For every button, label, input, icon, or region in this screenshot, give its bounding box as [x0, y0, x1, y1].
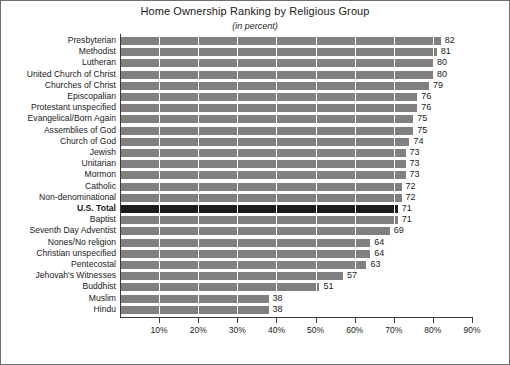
bar-value-label: 82 — [445, 35, 455, 45]
bar-value-label: 73 — [410, 147, 420, 157]
category-label: Mormon — [0, 169, 116, 181]
bar — [120, 306, 269, 314]
bar-value-label: 38 — [273, 304, 283, 314]
bar — [120, 261, 366, 269]
bar — [120, 93, 417, 101]
x-tick-label: 60% — [346, 325, 363, 335]
chart-title: Home Ownership Ranking by Religious Grou… — [0, 5, 510, 17]
gridline-30pct — [237, 36, 238, 316]
category-label: Nones/No religion — [0, 237, 116, 249]
bar-value-label: 81 — [441, 46, 451, 56]
x-tick — [159, 318, 160, 323]
gridline-10pct — [159, 36, 160, 316]
category-label: Buddhist — [0, 281, 116, 293]
category-axis-labels: PresbyterianMethodistLutheranUnited Chur… — [0, 36, 116, 316]
bar — [120, 239, 370, 247]
x-tick — [433, 318, 434, 323]
bar-row: 69 — [120, 226, 472, 238]
bar — [120, 205, 398, 213]
x-tick — [276, 318, 277, 323]
bar-row: 72 — [120, 182, 472, 194]
bar-row: 51 — [120, 282, 472, 294]
bar-value-label: 71 — [402, 214, 412, 224]
x-tick — [237, 318, 238, 323]
category-label: Seventh Day Adventist — [0, 225, 116, 237]
category-label: Church of God — [0, 136, 116, 148]
category-label: Hindu — [0, 304, 116, 316]
bar-value-label: 76 — [421, 91, 431, 101]
category-label: Catholic — [0, 181, 116, 193]
category-label: Christian unspecified — [0, 248, 116, 260]
category-label: Protestant unspecified — [0, 102, 116, 114]
category-label: Churches of Christ — [0, 80, 116, 92]
bar-row: 38 — [120, 305, 472, 317]
x-tick-label: 40% — [268, 325, 285, 335]
bar-row: 71 — [120, 204, 472, 216]
category-label: Non-denominational — [0, 192, 116, 204]
x-tick-label: 50% — [307, 325, 324, 335]
gridline-40pct — [276, 36, 277, 316]
x-tick — [316, 318, 317, 323]
bar-row: 71 — [120, 215, 472, 227]
bar-value-label: 75 — [417, 125, 427, 135]
bar-row: 76 — [120, 92, 472, 104]
bar-value-label: 72 — [406, 192, 416, 202]
bar — [120, 104, 417, 112]
chart-figure: Home Ownership Ranking by Religious Grou… — [0, 0, 510, 365]
bar-value-label: 64 — [374, 248, 384, 258]
bar-value-label: 51 — [323, 281, 333, 291]
y-axis-line — [120, 34, 121, 318]
bar-row: 79 — [120, 81, 472, 93]
bar-row: 80 — [120, 70, 472, 82]
bar-value-label: 73 — [410, 169, 420, 179]
bar — [120, 194, 402, 202]
x-tick — [394, 318, 395, 323]
bar-value-label: 63 — [370, 259, 380, 269]
bar-row: 63 — [120, 260, 472, 272]
bar-row: 64 — [120, 249, 472, 261]
category-label: Baptist — [0, 214, 116, 226]
category-label: Methodist — [0, 46, 116, 58]
bar — [120, 138, 409, 146]
bar — [120, 283, 319, 291]
bar-row: 64 — [120, 238, 472, 250]
x-tick-label: 20% — [190, 325, 207, 335]
category-label: Unitarian — [0, 158, 116, 170]
bar — [120, 250, 370, 258]
bar-row: 38 — [120, 294, 472, 306]
gridline-80pct — [433, 36, 434, 316]
x-tick — [355, 318, 356, 323]
bar-row: 80 — [120, 58, 472, 70]
bar-row: 57 — [120, 271, 472, 283]
category-label: U.S. Total — [0, 203, 116, 215]
bar — [120, 37, 441, 45]
category-label: Jewish — [0, 147, 116, 159]
bar-value-label: 69 — [394, 225, 404, 235]
category-label: Muslim — [0, 293, 116, 305]
bar — [120, 171, 406, 179]
bar — [120, 82, 429, 90]
bar-value-label: 38 — [273, 293, 283, 303]
bar-row: 82 — [120, 36, 472, 48]
category-label: United Church of Christ — [0, 69, 116, 81]
x-tick-label: 80% — [424, 325, 441, 335]
category-label: Lutheran — [0, 57, 116, 69]
bar — [120, 115, 413, 123]
x-tick-label: 90% — [463, 325, 480, 335]
bar-value-label: 74 — [413, 136, 423, 146]
plot-area: 8281808079767675757473737372727171696464… — [120, 36, 472, 316]
x-axis-line — [120, 317, 473, 318]
bar — [120, 227, 390, 235]
bar-value-label: 79 — [433, 80, 443, 90]
bar — [120, 295, 269, 303]
x-tick-label: 10% — [151, 325, 168, 335]
bar — [120, 149, 406, 157]
bar — [120, 127, 413, 135]
gridline-90pct — [472, 36, 473, 316]
bar-value-label: 64 — [374, 237, 384, 247]
bar — [120, 272, 343, 280]
x-tick — [472, 318, 473, 323]
bar-row: 72 — [120, 193, 472, 205]
gridline-50pct — [316, 36, 317, 316]
category-label: Jehovah's Witnesses — [0, 270, 116, 282]
